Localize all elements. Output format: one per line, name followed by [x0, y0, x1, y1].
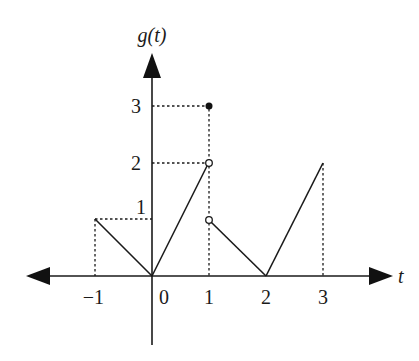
y-tick-3: 3	[131, 95, 141, 117]
segment-ramp-down-1-2	[211, 222, 266, 276]
x-tick-0: 0	[159, 286, 169, 308]
signal-plot: g(t) t −1 0 1 2 3 1 2 3	[0, 0, 419, 361]
y-axis-title: g(t)	[138, 24, 167, 47]
filled-point-t1-y3	[206, 103, 213, 110]
x-axis-right-arrow-icon	[369, 267, 393, 285]
y-tick-1: 1	[136, 196, 146, 218]
y-tick-2: 2	[131, 152, 141, 174]
x-tick-3: 3	[318, 286, 328, 308]
x-axis-left-arrow-icon	[26, 267, 50, 285]
x-axis-title: t	[398, 265, 404, 287]
y-axis-up-arrow-icon	[143, 53, 161, 78]
segment-ramp-up-0-1	[152, 166, 207, 276]
open-point-t1-y1	[206, 217, 213, 224]
x-tick-2: 2	[261, 286, 271, 308]
segment-ramp-down-neg1-0	[95, 219, 152, 276]
segment-ramp-up-2-3	[266, 163, 323, 276]
dashed-guides	[95, 106, 323, 276]
x-tick-1: 1	[204, 286, 214, 308]
open-point-t1-y2	[206, 160, 213, 167]
x-tick-neg1: −1	[83, 286, 104, 308]
